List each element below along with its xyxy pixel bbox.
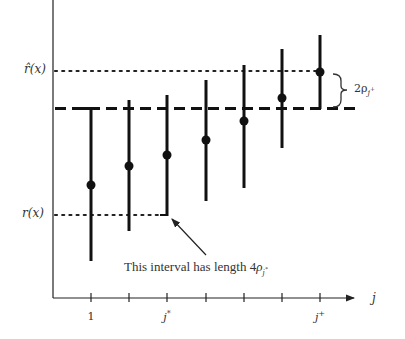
brace-label-base: 2ρ (354, 82, 367, 95)
interval-length-caption: This interval has length 4ρj* (124, 259, 268, 277)
tick-jstar-sup: * (167, 309, 171, 318)
r-label: r(x) (22, 206, 44, 220)
confidence-intervals (87, 35, 325, 261)
tick-jplus-sup: + (318, 309, 325, 318)
caption-sub: j* (262, 268, 267, 277)
tick-label-1: 1 (88, 310, 95, 323)
brace-label-sub: j+ (367, 88, 375, 97)
annotation-arrow (172, 219, 206, 255)
tick-label-jplus: j+ (315, 309, 325, 324)
r-hat-label: r̂(x) (24, 62, 46, 76)
brace-icon (333, 74, 347, 107)
caption-text: This interval has length 4 (124, 259, 256, 274)
interval-diagram (0, 0, 405, 339)
x-axis-label: j (372, 291, 376, 305)
tick-label-jstar: j* (163, 309, 170, 324)
brace-label: 2ρj+ (354, 82, 375, 97)
